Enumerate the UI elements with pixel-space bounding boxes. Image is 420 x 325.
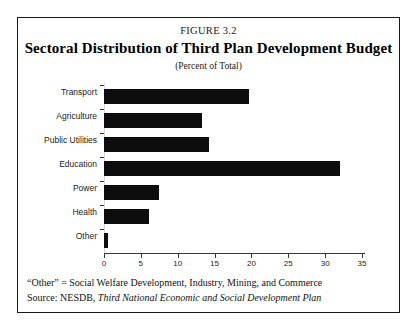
bar-category-label: Public Utilities xyxy=(44,135,97,145)
x-axis-tick xyxy=(251,254,252,258)
figure-subtitle: (Percent of Total) xyxy=(18,61,399,71)
x-axis-tick xyxy=(362,254,363,258)
x-axis-tick xyxy=(178,254,179,258)
x-axis-ticks: 05101520253035 xyxy=(104,254,362,274)
bar-row: Other xyxy=(104,229,362,253)
bar-category-label: Transport xyxy=(61,87,97,97)
y-axis-tick xyxy=(100,85,104,86)
x-axis-tick-label: 35 xyxy=(358,259,367,268)
x-axis-tick-label: 15 xyxy=(210,259,219,268)
bar xyxy=(104,89,249,104)
figure-number: FIGURE 3.2 xyxy=(18,25,399,36)
x-axis-tick xyxy=(104,254,105,258)
source-line: Source: NESDB, Third National Economic a… xyxy=(27,290,392,305)
x-axis-tick-label: 20 xyxy=(247,259,256,268)
x-axis-tick xyxy=(141,254,142,258)
other-footnote: “Other” = Social Welfare Development, In… xyxy=(27,275,392,290)
bar-row: Education xyxy=(104,157,362,181)
bar-chart-plot: TransportAgriculturePublic UtilitiesEduc… xyxy=(18,81,401,276)
bar-row: Agriculture xyxy=(104,109,362,133)
bar xyxy=(104,233,108,248)
bar xyxy=(104,113,202,128)
bar-row: Public Utilities xyxy=(104,133,362,157)
source-document-title: Third National Economic and Social Devel… xyxy=(98,292,322,303)
y-axis-tick xyxy=(100,229,104,230)
x-axis-tick-label: 0 xyxy=(102,259,106,268)
x-axis-tick-label: 25 xyxy=(284,259,293,268)
x-axis-tick-label: 5 xyxy=(139,259,143,268)
bar-row: Power xyxy=(104,181,362,205)
bar-row: Transport xyxy=(104,85,362,109)
bar xyxy=(104,209,149,224)
y-axis-tick xyxy=(100,157,104,158)
y-axis-tick xyxy=(100,181,104,182)
figure-notes: “Other” = Social Welfare Development, In… xyxy=(27,275,392,305)
x-axis-tick-label: 30 xyxy=(321,259,330,268)
bar-category-label: Health xyxy=(72,207,97,217)
bar xyxy=(104,137,209,152)
bar-row: Health xyxy=(104,205,362,229)
y-axis-tick xyxy=(100,133,104,134)
bar-category-label: Agriculture xyxy=(56,111,97,121)
figure-container: FIGURE 3.2 Sectoral Distribution of Thir… xyxy=(17,17,400,313)
bar-category-label: Education xyxy=(59,159,97,169)
x-axis-tick xyxy=(325,254,326,258)
y-axis-tick xyxy=(100,109,104,110)
x-axis-tick xyxy=(215,254,216,258)
y-axis-tick xyxy=(100,205,104,206)
bars-area: TransportAgriculturePublic UtilitiesEduc… xyxy=(104,85,362,253)
bar-category-label: Power xyxy=(73,183,97,193)
x-axis-tick xyxy=(288,254,289,258)
bar xyxy=(104,161,340,176)
bar xyxy=(104,185,159,200)
x-axis-tick-label: 10 xyxy=(173,259,182,268)
figure-title: Sectoral Distribution of Third Plan Deve… xyxy=(18,40,399,57)
bar-category-label: Other xyxy=(76,231,97,241)
source-label: Source: NESDB, xyxy=(27,292,98,303)
